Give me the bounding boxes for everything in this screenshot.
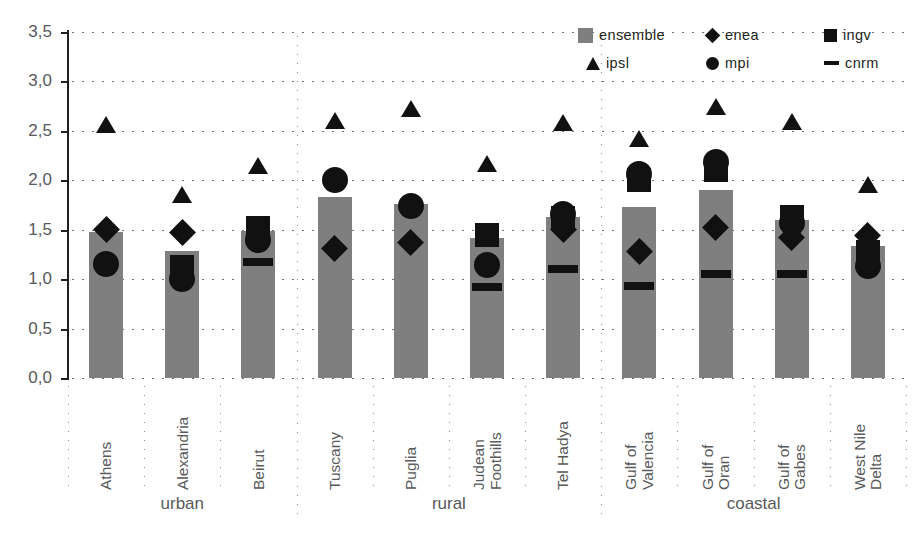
legend-item-label: enea — [725, 27, 759, 43]
triangle-icon — [586, 57, 600, 70]
data-point-cnrm — [701, 270, 731, 278]
gray-square-icon — [578, 28, 593, 43]
y-tick-label: 1,0 — [0, 270, 52, 287]
plot-area — [68, 32, 906, 378]
data-point-ipsl — [248, 157, 268, 174]
x-label-line: Gabes — [792, 382, 808, 490]
group-labels: urbanruralcoastal — [68, 495, 906, 525]
data-point-cnrm — [777, 270, 807, 278]
y-tick-label: 1,5 — [0, 221, 52, 238]
legend-item-label: ensemble — [599, 27, 665, 43]
y-tick-label: 3,5 — [0, 23, 52, 40]
data-point-ingv — [170, 255, 194, 279]
circle-icon — [706, 57, 719, 70]
legend-item-label: ipsl — [606, 55, 629, 71]
data-point-ingv — [246, 216, 270, 240]
x-label-line: Puglia — [403, 382, 419, 490]
group-label: coastal — [601, 495, 906, 512]
data-point-ipsl — [172, 186, 192, 203]
bar-ensemble — [318, 197, 352, 378]
x-label-line: Athens — [98, 382, 114, 490]
group-label: rural — [297, 495, 602, 512]
legend-item-label: ingv — [843, 27, 871, 43]
square-icon — [824, 29, 837, 42]
bar-ensemble — [241, 231, 275, 378]
data-point-ipsl — [629, 130, 649, 147]
legend-item-label: mpi — [725, 55, 750, 71]
gridline — [68, 378, 906, 379]
legend-item-ensemble[interactable]: ensemble — [578, 24, 665, 46]
x-axis-labels: AthensAlexandriaBeirutTuscanyPugliaJudea… — [68, 382, 906, 492]
x-label-line: Tel Hadya — [555, 382, 571, 490]
data-point-ipsl — [858, 176, 878, 193]
x-label-line: West Nile — [852, 382, 868, 490]
x-label-line: Oran — [716, 382, 732, 490]
x-label-line: Delta — [868, 382, 884, 490]
x-label-line: Gulf of — [776, 382, 792, 490]
x-axis-category-label: West NileDelta — [809, 382, 914, 490]
data-point-ingv — [627, 168, 651, 192]
legend-item-ingv[interactable]: ingv — [824, 24, 871, 46]
diamond-icon — [705, 27, 721, 43]
data-point-mpi — [398, 193, 424, 219]
legend-item-enea[interactable]: enea — [706, 24, 759, 46]
data-point-ipsl — [706, 98, 726, 115]
legend-item-mpi[interactable]: mpi — [706, 52, 750, 74]
data-point-cnrm — [548, 265, 578, 273]
data-point-ingv — [704, 158, 728, 182]
dash-icon — [824, 61, 839, 65]
data-point-cnrm — [243, 258, 273, 266]
data-point-ipsl — [401, 100, 421, 117]
legend-item-label: cnrm — [845, 55, 879, 71]
data-point-cnrm — [624, 282, 654, 290]
data-point-mpi — [322, 167, 348, 193]
bar-ensemble — [622, 207, 656, 378]
y-tick-label: 2,5 — [0, 122, 52, 139]
data-point-ipsl — [553, 114, 573, 131]
y-tick-label: 0,0 — [0, 369, 52, 386]
data-point-ipsl — [325, 112, 345, 129]
x-label-line: Beirut — [251, 382, 267, 490]
y-tick-label: 3,0 — [0, 72, 52, 89]
legend: ensembleeneaingvipslmpicnrm — [578, 24, 904, 78]
y-tick-mark — [61, 378, 69, 380]
x-label-line: Gulf of — [623, 382, 639, 490]
legend-item-cnrm[interactable]: cnrm — [824, 52, 879, 74]
group-label: urban — [68, 495, 297, 512]
y-tick-label: 0,5 — [0, 320, 52, 337]
x-label-line: Alexandria — [175, 382, 191, 490]
x-label-line: Gulf of — [700, 382, 716, 490]
legend-item-ipsl[interactable]: ipsl — [586, 52, 629, 74]
data-point-ipsl — [96, 116, 116, 133]
x-label-line: Foothills — [488, 382, 504, 490]
data-point-cnrm — [472, 283, 502, 291]
data-point-ipsl — [477, 155, 497, 172]
chart-container: 0,00,51,01,52,02,53,03,5 AthensAlexandri… — [0, 0, 914, 553]
x-label-line: Judean — [471, 382, 487, 490]
data-point-ingv — [475, 223, 499, 247]
x-label-line: Valencia — [640, 382, 656, 490]
x-label-line: Tuscany — [327, 382, 343, 490]
data-point-enea — [169, 219, 196, 246]
data-point-ipsl — [782, 113, 802, 130]
y-tick-label: 2,0 — [0, 171, 52, 188]
